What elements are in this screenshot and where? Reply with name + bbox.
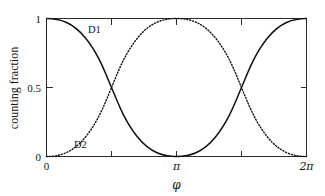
x-axis-title: φ: [172, 178, 181, 192]
y-tick-label-0point5: 0.5: [27, 82, 41, 94]
y-tick-label-0: 0: [36, 151, 42, 163]
y-axis-title: counting fraction: [7, 47, 21, 129]
x-tick-label-0: 0: [44, 160, 50, 172]
x-tick-label-2pi: 2π: [298, 160, 314, 173]
curve-d1: [47, 19, 307, 157]
x-axis-ticks: [112, 19, 242, 157]
chart-canvas: 1 0.5 0 0 π 2π φ counting fraction D1 D2: [0, 0, 325, 196]
y-axis-ticks: [47, 19, 307, 157]
curve-label-d1: D1: [88, 24, 101, 35]
plot-frame: [47, 19, 307, 157]
curve-label-d2: D2: [74, 139, 87, 150]
curve-d2: [47, 19, 307, 157]
x-tick-label-pi: π: [172, 160, 181, 173]
y-tick-label-1: 1: [36, 13, 42, 25]
chart-figure: 1 0.5 0 0 π 2π φ counting fraction D1 D2: [0, 0, 325, 196]
